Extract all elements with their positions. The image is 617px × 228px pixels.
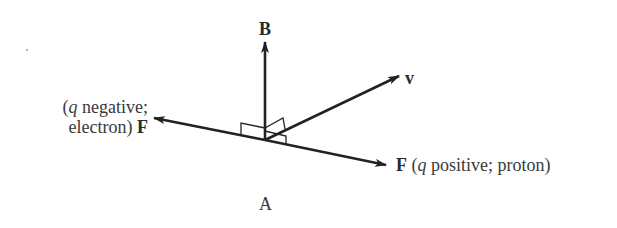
force-negative-arrow bbox=[154, 118, 265, 140]
velocity-arrow bbox=[265, 76, 399, 140]
f-negative-line1: (q negative; bbox=[30, 97, 148, 117]
force-positive-arrow bbox=[265, 140, 386, 165]
right-angle-marker-left bbox=[241, 123, 265, 135]
right-angle-marker-v bbox=[265, 118, 285, 129]
f-negative-line2: electron) F bbox=[30, 117, 148, 137]
panel-label: A bbox=[259, 194, 272, 214]
f-positive-label: F (q positive; proton) bbox=[396, 155, 551, 175]
v-label: v bbox=[405, 68, 414, 88]
f-negative-label: (q negative; electron) F bbox=[30, 97, 148, 137]
speck bbox=[26, 49, 28, 51]
b-label: B bbox=[259, 19, 271, 39]
